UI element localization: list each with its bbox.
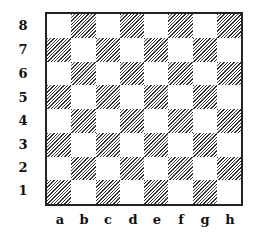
square-d1 xyxy=(120,180,144,204)
square-f2 xyxy=(168,157,192,181)
rank-label-3: 3 xyxy=(16,137,30,152)
square-g8 xyxy=(193,14,217,38)
square-d4 xyxy=(120,109,144,133)
square-f1 xyxy=(168,180,192,204)
square-f5 xyxy=(168,85,192,109)
square-c2 xyxy=(96,157,120,181)
square-a4 xyxy=(47,109,71,133)
square-b3 xyxy=(71,133,95,157)
square-a3 xyxy=(47,133,71,157)
square-h1 xyxy=(217,180,241,204)
square-f4 xyxy=(168,109,192,133)
square-b1 xyxy=(71,180,95,204)
square-b8 xyxy=(71,14,95,38)
square-c1 xyxy=(96,180,120,204)
square-e1 xyxy=(144,180,168,204)
square-d8 xyxy=(120,14,144,38)
square-e7 xyxy=(144,38,168,62)
square-b6 xyxy=(71,62,95,86)
square-d7 xyxy=(120,38,144,62)
square-a8 xyxy=(47,14,71,38)
file-label-h: h xyxy=(218,212,242,227)
square-a7 xyxy=(47,38,71,62)
square-f3 xyxy=(168,133,192,157)
rank-label-6: 6 xyxy=(16,66,30,81)
square-b5 xyxy=(71,85,95,109)
square-f6 xyxy=(168,62,192,86)
square-h2 xyxy=(217,157,241,181)
square-b7 xyxy=(71,38,95,62)
square-d2 xyxy=(120,157,144,181)
square-d5 xyxy=(120,85,144,109)
square-g3 xyxy=(193,133,217,157)
square-a2 xyxy=(47,157,71,181)
file-label-d: d xyxy=(121,212,145,227)
square-g2 xyxy=(193,157,217,181)
square-e5 xyxy=(144,85,168,109)
square-c5 xyxy=(96,85,120,109)
rank-label-5: 5 xyxy=(16,90,30,105)
square-c3 xyxy=(96,133,120,157)
square-d6 xyxy=(120,62,144,86)
chess-board xyxy=(45,12,243,206)
square-c4 xyxy=(96,109,120,133)
square-g5 xyxy=(193,85,217,109)
square-e3 xyxy=(144,133,168,157)
file-label-b: b xyxy=(72,212,96,227)
file-label-e: e xyxy=(145,212,169,227)
file-label-a: a xyxy=(48,212,72,227)
rank-label-7: 7 xyxy=(16,42,30,57)
square-g7 xyxy=(193,38,217,62)
square-c7 xyxy=(96,38,120,62)
square-h7 xyxy=(217,38,241,62)
square-e2 xyxy=(144,157,168,181)
square-g4 xyxy=(193,109,217,133)
square-g1 xyxy=(193,180,217,204)
file-label-g: g xyxy=(193,212,217,227)
square-g6 xyxy=(193,62,217,86)
square-f7 xyxy=(168,38,192,62)
rank-label-1: 1 xyxy=(16,183,30,198)
square-h6 xyxy=(217,62,241,86)
square-e4 xyxy=(144,109,168,133)
square-b4 xyxy=(71,109,95,133)
square-c8 xyxy=(96,14,120,38)
square-e6 xyxy=(144,62,168,86)
square-a1 xyxy=(47,180,71,204)
square-h8 xyxy=(217,14,241,38)
square-b2 xyxy=(71,157,95,181)
square-a6 xyxy=(47,62,71,86)
square-e8 xyxy=(144,14,168,38)
rank-label-4: 4 xyxy=(16,113,30,128)
square-h4 xyxy=(217,109,241,133)
rank-label-8: 8 xyxy=(16,18,30,33)
file-label-c: c xyxy=(96,212,120,227)
square-h5 xyxy=(217,85,241,109)
file-label-f: f xyxy=(169,212,193,227)
square-d3 xyxy=(120,133,144,157)
square-h3 xyxy=(217,133,241,157)
square-a5 xyxy=(47,85,71,109)
square-c6 xyxy=(96,62,120,86)
square-f8 xyxy=(168,14,192,38)
rank-label-2: 2 xyxy=(16,160,30,175)
